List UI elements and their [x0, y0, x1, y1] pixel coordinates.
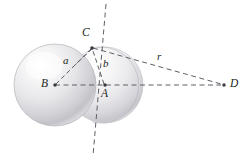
label-segment-b: b [103, 58, 109, 69]
label-point-a: A [101, 88, 108, 100]
label-point-b: B [41, 78, 48, 90]
large-sphere-highlight [25, 52, 63, 80]
figure-canvas [0, 0, 250, 160]
label-point-c: C [82, 27, 90, 39]
point-b-dot [53, 83, 56, 86]
point-d-dot [222, 83, 225, 86]
point-c-dot [90, 46, 94, 50]
label-point-d: D [230, 78, 238, 90]
geometry-figure: B A C D a b r [0, 0, 250, 160]
label-segment-a: a [63, 55, 69, 66]
label-segment-r: r [157, 51, 161, 62]
